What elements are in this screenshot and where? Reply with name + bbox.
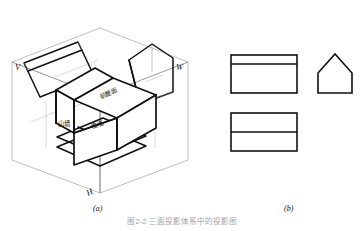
figure-caption: 图2-2 三面投影体系中的投影图 (0, 214, 364, 231)
panel-label-b: (b) (284, 204, 294, 213)
figure-container: V W H 前屋面 山墙 檐墙 (a) (0, 0, 364, 231)
axis-label-h: H (84, 186, 96, 198)
side-view-outline (318, 54, 352, 93)
axis-label-v: V (15, 62, 22, 72)
axis-label-w: W (176, 62, 184, 72)
panel-label-a: (a) (93, 204, 103, 213)
face-label-gable-wall: 山墙 (58, 119, 71, 128)
panel-a-isometric: V W H 前屋面 山墙 檐墙 (a) (12, 28, 188, 213)
ortho-front-view (231, 55, 297, 93)
panel-b-orthographic-views: (b) (231, 54, 352, 213)
ortho-top-view (231, 113, 297, 151)
house-model-3d (56, 68, 156, 165)
front-view-outline (231, 55, 297, 93)
ortho-side-view (318, 54, 352, 93)
technical-drawing-svg: V W H 前屋面 山墙 檐墙 (a) (0, 0, 364, 231)
v-projection-eave-line (28, 50, 82, 71)
figure-caption-text: 图2-2 三面投影体系中的投影图 (127, 215, 236, 226)
